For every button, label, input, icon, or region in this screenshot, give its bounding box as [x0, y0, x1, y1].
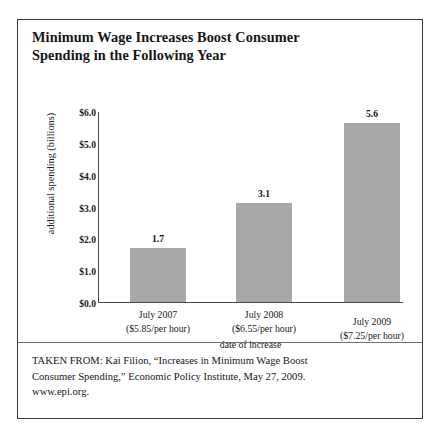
bar-rect-july-2008 — [236, 203, 292, 302]
x-category-july-2009: July 2009 ($7.25/per hour) — [317, 315, 427, 342]
y-tick-3: $3.0 — [50, 202, 96, 213]
x-category-name-0: July 2007 — [139, 309, 177, 320]
source-attribution: TAKEN FROM: Kai Filion, “Increases in Mi… — [32, 353, 404, 400]
bar-july-2009: 5.6 — [344, 123, 400, 301]
x-category-name-2: July 2009 — [353, 316, 391, 327]
x-category-rate-1: ($6.55/per hour) — [209, 322, 319, 336]
x-axis-line — [98, 302, 403, 303]
bar-value-july-2007: 1.7 — [130, 233, 186, 244]
source-line-1: TAKEN FROM: Kai Filion, “Increases in Mi… — [32, 353, 404, 369]
source-divider — [18, 342, 422, 343]
title-line-1: Minimum Wage Increases Boost Consumer — [32, 29, 402, 47]
bar-july-2007: 1.7 — [130, 248, 186, 302]
y-axis-line — [98, 112, 99, 303]
title-line-2: Spending in the Following Year — [32, 47, 402, 65]
plot-area: 1.7 3.1 5.6 — [98, 112, 403, 303]
y-tick-2: $2.0 — [50, 234, 96, 245]
y-tick-5: $5.0 — [50, 138, 96, 149]
x-category-name-1: July 2008 — [245, 309, 283, 320]
y-axis-tick-labels: $6.0 $5.0 $4.0 $3.0 $2.0 $1.0 $0.0 — [44, 72, 96, 342]
y-tick-0: $0.0 — [50, 298, 96, 309]
y-tick-6: $6.0 — [50, 107, 96, 118]
source-line-2: Consumer Spending,” Economic Policy Inst… — [32, 369, 404, 385]
bar-july-2008: 3.1 — [236, 203, 292, 302]
chart-region: additional spending (billions) $6.0 $5.0… — [18, 72, 422, 342]
bar-rect-july-2009 — [344, 123, 400, 301]
bar-value-july-2009: 5.6 — [344, 108, 400, 119]
bar-value-july-2008: 3.1 — [236, 188, 292, 199]
x-axis-label: date of increase — [98, 339, 403, 350]
bar-rect-july-2007 — [130, 248, 186, 302]
source-line-3: www.epi.org. — [32, 384, 404, 400]
x-category-rate-0: ($5.85/per hour) — [103, 322, 213, 336]
y-tick-4: $4.0 — [50, 170, 96, 181]
x-category-july-2007: July 2007 ($5.85/per hour) — [103, 308, 213, 335]
figure-frame: Minimum Wage Increases Boost Consumer Sp… — [17, 19, 423, 419]
y-tick-1: $1.0 — [50, 266, 96, 277]
figure-title: Minimum Wage Increases Boost Consumer Sp… — [32, 29, 402, 64]
x-category-july-2008: July 2008 ($6.55/per hour) — [209, 308, 319, 335]
